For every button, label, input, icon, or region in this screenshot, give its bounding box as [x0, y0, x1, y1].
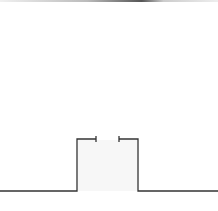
recess-fill	[78, 140, 137, 191]
outline-diagram	[0, 0, 218, 211]
